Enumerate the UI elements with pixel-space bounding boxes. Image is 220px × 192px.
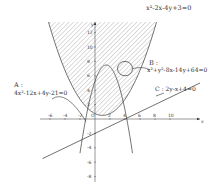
x-tick-label: 8: [153, 113, 156, 118]
curve-a-equation: 4x²-12x+4y-21=0: [14, 90, 67, 96]
x-tick-label: -4: [63, 113, 68, 118]
curve-a-name: A :: [14, 82, 23, 89]
line-c-equation: C : 2y-x+4=0: [155, 86, 196, 92]
coordinate-plot: xyO-6-4-2246810-8-6-4-224681012: [0, 0, 220, 192]
x-axis-label: x: [201, 119, 204, 124]
y-tick-label: -8: [87, 174, 92, 179]
hatch-fill: [47, 17, 158, 116]
circle-b-equation: x²+y²-8x-14y+64=0: [147, 67, 207, 73]
y-tick-label: 10: [87, 45, 93, 50]
y-tick-label: -6: [87, 160, 92, 165]
x-tick-label: 10: [168, 113, 174, 118]
hatched-region-parabola-interior: [47, 17, 158, 116]
y-tick-label: -4: [87, 145, 92, 150]
x-axis-arrow-icon: [197, 118, 200, 121]
x-tick-label: -6: [48, 113, 53, 118]
y-tick-label: 12: [87, 30, 93, 35]
y-tick-label: 6: [87, 73, 90, 78]
parabola-equation-label: x²-2x-4y+3=0: [146, 5, 191, 12]
origin-label: O: [91, 113, 95, 118]
y-tick-label: 8: [87, 59, 90, 64]
y-axis-label: y: [91, 22, 94, 27]
pointer-c: [156, 93, 164, 96]
x-tick-label: 6: [138, 113, 141, 118]
y-tick-label: 4: [87, 88, 90, 93]
